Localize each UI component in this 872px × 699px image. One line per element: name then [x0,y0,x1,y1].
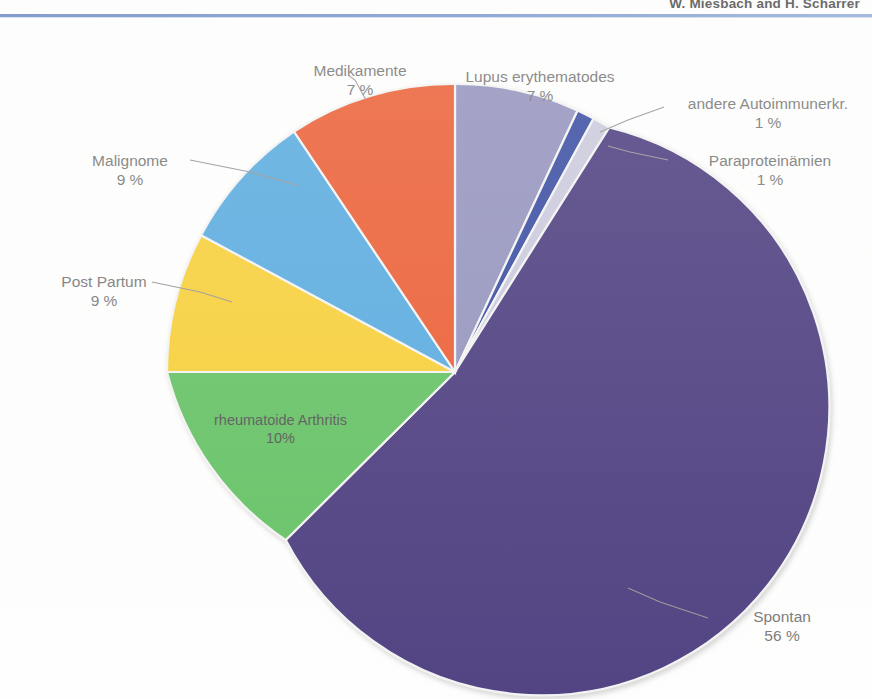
slice-label-lupus-erythematodes: Lupus erythematodes 7 % [420,68,660,106]
slice-label-medikamente: Medikamente 7 % [290,62,430,100]
slice-label-malignome: Malignome 9 % [50,152,210,190]
slice-label-lupus-pct: 7 % [420,87,660,106]
slice-label-andere-name: andere Autoimmunerkr. [668,95,868,114]
slice-label-paraproteinaemien: Paraproteinämien 1 % [672,152,868,190]
slice-label-lupus-name: Lupus erythematodes [420,68,660,87]
slice-label-postpartum-name: Post Partum [24,273,184,292]
slice-label-postpartum-pct: 9 % [24,292,184,311]
slice-label-rheumatoide-arthritis: rheumatoide Arthritis 10% [168,412,393,447]
slice-label-paraprotein-name: Paraproteinämien [672,152,868,171]
slice-label-andere-pct: 1 % [668,114,868,133]
running-head: W. Miesbach and H. Scharrer [669,0,860,10]
slice-label-spontan-pct: 56 % [712,627,852,646]
slice-label-spontan: Spontan 56 % [712,608,852,646]
slice-label-medikamente-pct: 7 % [290,81,430,100]
pie-chart: Medikamente 7 % Lupus erythematodes 7 % … [0,20,872,699]
slice-label-medikamente-name: Medikamente [290,62,430,81]
slice-label-post-partum: Post Partum 9 % [24,273,184,311]
page-canvas: W. Miesbach and H. Scharrer [0,0,872,699]
slice-label-andere-autoimmunerkr: andere Autoimmunerkr. 1 % [668,95,868,133]
slice-label-malignome-pct: 9 % [50,171,210,190]
slice-label-spontan-name: Spontan [712,608,852,627]
slice-label-paraprotein-pct: 1 % [672,171,868,190]
slice-label-rheumatoide-pct: 10% [168,430,393,448]
header-rule-shadow [0,17,872,18]
slice-label-malignome-name: Malignome [50,152,210,171]
slice-label-rheumatoide-name: rheumatoide Arthritis [168,412,393,430]
